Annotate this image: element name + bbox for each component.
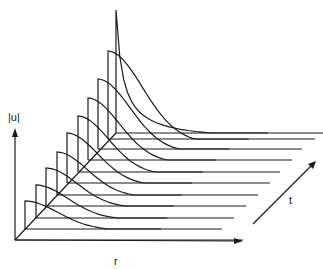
t-axis-label: t xyxy=(289,195,292,206)
profile-slice xyxy=(57,152,258,195)
time-diagonal-line xyxy=(15,133,116,240)
t-axis-arrow xyxy=(253,165,312,224)
profile-slice xyxy=(108,51,315,139)
u-axis-arrowhead-icon xyxy=(12,128,18,137)
profile-slice xyxy=(36,185,234,218)
r-axis-arrowhead-icon xyxy=(234,238,243,244)
r-axis-label: r xyxy=(114,256,118,267)
u-axis-label: |u| xyxy=(8,112,20,123)
waterfall-plot xyxy=(0,0,323,269)
profile-slice xyxy=(46,168,246,206)
profile-slices xyxy=(15,10,323,240)
profile-slice xyxy=(116,10,323,133)
